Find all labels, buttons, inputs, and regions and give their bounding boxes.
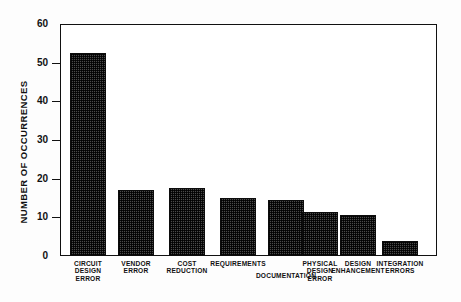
- bar: [382, 241, 418, 256]
- y-tick-label: 40: [0, 96, 48, 106]
- y-tick-label: 60: [0, 19, 48, 29]
- x-axis-category-labels: CIRCUIT DESIGN ERRORVENDOR ERRORCOST RED…: [0, 258, 461, 302]
- bar: [220, 198, 256, 256]
- bar: [118, 190, 154, 256]
- bar: [268, 200, 304, 256]
- y-tick-label: 30: [0, 135, 48, 145]
- bar-chart: NUMBER OF OCCURRENCES 0102030405060 CIRC…: [0, 0, 461, 302]
- y-tick-label: 50: [0, 58, 48, 68]
- bar: [340, 215, 376, 256]
- y-tick-label: 20: [0, 174, 48, 184]
- bar: [169, 188, 205, 256]
- x-category-label: REQUIREMENTS: [204, 260, 272, 267]
- x-category-label: INTEGRATION ERRORS: [366, 260, 434, 275]
- bar: [70, 53, 106, 256]
- y-tick-label: 10: [0, 212, 48, 222]
- bar: [302, 212, 338, 256]
- bar-series: [60, 24, 437, 256]
